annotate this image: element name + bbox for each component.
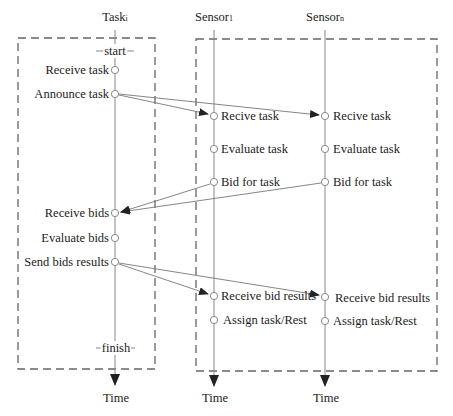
start-label: start bbox=[103, 44, 127, 58]
event-send-bids-results: Send bids results bbox=[24, 255, 109, 269]
sensor1-event-recive-task: Recive task bbox=[221, 109, 279, 123]
event-receive-bids: Receive bids bbox=[45, 206, 109, 220]
sensorn-event-assign-task: Assign task/Rest bbox=[333, 314, 417, 328]
task-header: Taski bbox=[102, 10, 128, 26]
event-evaluate-bids: Evaluate bids bbox=[41, 231, 109, 245]
finish-label: finish bbox=[101, 341, 131, 355]
sensor1-event-bid-for-task: Bid for task bbox=[221, 175, 280, 189]
sensor1-time-label: Time bbox=[202, 391, 228, 405]
sensorn-event-recive-task: Recive task bbox=[333, 109, 391, 123]
event-announce-task: Announce task bbox=[34, 87, 109, 101]
sensorn-event-bid-for-task: Bid for task bbox=[333, 175, 392, 189]
sensor1-event-receive-bid-results: Receive bid results bbox=[221, 289, 316, 303]
sensor1-event-evaluate-task: Evaluate task bbox=[221, 142, 288, 156]
sensor1-header: Sensor1 bbox=[195, 10, 233, 26]
task-time-label: Time bbox=[103, 391, 129, 405]
sensorn-time-label: Time bbox=[313, 391, 339, 405]
message-arrows bbox=[119, 94, 321, 295]
event-receive-task: Receive task bbox=[45, 63, 109, 77]
event-nodes bbox=[111, 66, 328, 324]
sensorn-event-evaluate-task: Evaluate task bbox=[333, 142, 400, 156]
sensorn-header: Sensorn bbox=[306, 10, 344, 26]
sensorn-event-receive-bid-results: Receive bid results bbox=[335, 291, 430, 305]
sensor1-event-assign-task: Assign task/Rest bbox=[223, 313, 307, 327]
